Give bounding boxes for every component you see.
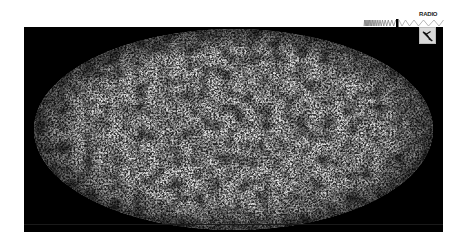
wavelength-wave-icon: [363, 19, 444, 27]
all-sky-map: [34, 29, 433, 230]
spectrum-strip: [363, 19, 444, 27]
band-marker: [396, 19, 399, 27]
satellite-dish-icon: [420, 28, 435, 43]
radio-band-icon: [419, 27, 436, 44]
panel-divider: [24, 224, 443, 225]
sky-noise-texture: [34, 29, 433, 230]
band-label: RADIO: [419, 11, 437, 18]
figure-panel: [24, 27, 443, 232]
